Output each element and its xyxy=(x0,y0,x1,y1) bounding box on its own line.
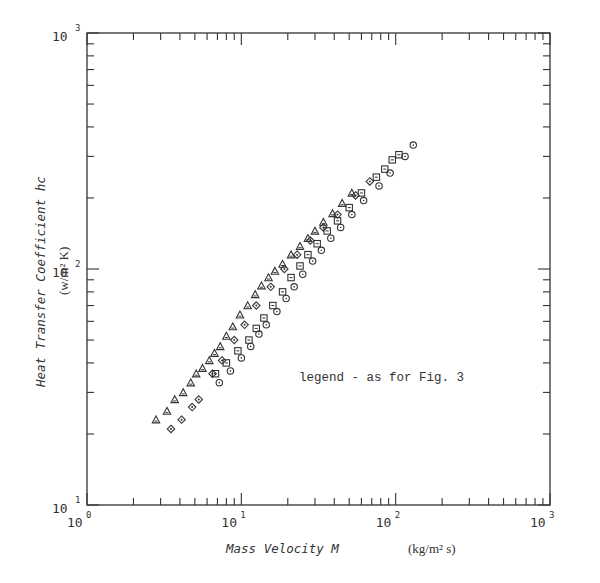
circle-marker-dot xyxy=(302,273,304,275)
circle-marker-dot xyxy=(241,357,243,359)
diamond-marker-dot xyxy=(270,286,272,288)
diamond-marker-dot xyxy=(170,428,172,430)
x-tick-label: 10 xyxy=(376,515,392,530)
plot-border xyxy=(87,33,550,505)
y-axis-ticks xyxy=(87,33,550,505)
triangle-marker xyxy=(179,389,186,396)
diamond-marker-dot xyxy=(233,339,235,341)
triangle-marker xyxy=(338,200,345,207)
triangle-marker xyxy=(199,364,206,371)
diamond-marker-dot xyxy=(309,240,311,242)
circle-marker-dot xyxy=(258,333,260,335)
triangle-marker xyxy=(229,323,236,330)
circle-marker-dot xyxy=(312,260,314,262)
y-tick-exponent: 1 xyxy=(75,495,80,505)
data-points xyxy=(152,142,416,433)
y-axis-unit: (w/m² K) xyxy=(56,247,71,295)
y-axis-title: Heat Transfer Coefficient hc xyxy=(33,176,48,388)
diamond-marker-dot xyxy=(355,194,357,196)
triangle-marker xyxy=(171,396,178,403)
circle-marker-dot xyxy=(404,156,406,158)
legend-annotation: legend - as for Fig. 3 xyxy=(299,371,464,385)
triangle-marker xyxy=(258,282,265,289)
triangle-marker xyxy=(187,379,194,386)
diamond-marker-dot xyxy=(255,305,257,307)
triangle-marker xyxy=(223,332,230,339)
circle-marker-dot xyxy=(351,214,353,216)
triangle-marker xyxy=(236,311,243,318)
diamond-marker-dot xyxy=(191,406,193,408)
diamond-marker-dot xyxy=(198,398,200,400)
x-axis-ticks xyxy=(87,33,550,505)
x-tick-label: 10 xyxy=(530,515,546,530)
y-axis-unit-group: (w/m² K) xyxy=(56,247,71,295)
x-tick-exponent: 3 xyxy=(549,510,554,520)
circle-marker-dot xyxy=(250,346,252,348)
circle-marker-dot xyxy=(363,200,365,202)
y-axis-title-group: Heat Transfer Coefficient hc xyxy=(33,176,48,388)
triangle-marker xyxy=(211,349,218,356)
circle-marker-dot xyxy=(321,250,323,252)
triangle-marker xyxy=(311,227,318,234)
triangle-marker xyxy=(296,242,303,249)
y-tick-exponent: 3 xyxy=(75,23,80,33)
triangle-marker xyxy=(271,267,278,274)
triangle-marker xyxy=(217,343,224,350)
y-tick-label: 10 xyxy=(52,501,68,516)
chart: 100101102103 101102103 legend - as for F… xyxy=(0,0,600,583)
diamond-marker-dot xyxy=(283,268,285,270)
x-tick-exponent: 0 xyxy=(86,510,91,520)
triangle-marker xyxy=(206,357,213,364)
circle-marker-dot xyxy=(276,311,278,313)
x-axis-unit: (kg/m² s) xyxy=(408,541,456,556)
plot-frame xyxy=(87,33,550,505)
circle-marker-dot xyxy=(412,144,414,146)
diamond-marker-dot xyxy=(369,180,371,182)
x-axis-tick-labels: 100101102103 xyxy=(67,510,554,530)
y-tick-exponent: 2 xyxy=(75,259,80,269)
y-tick-label: 10 xyxy=(52,29,68,44)
triangle-marker xyxy=(265,274,272,281)
x-tick-label: 10 xyxy=(221,515,237,530)
circle-marker-dot xyxy=(265,324,267,326)
triangle-marker xyxy=(244,302,251,309)
triangle-marker xyxy=(252,291,259,298)
circle-marker-dot xyxy=(285,298,287,300)
diamond-marker-dot xyxy=(296,254,298,256)
diamond-marker-dot xyxy=(181,419,183,421)
circle-marker-dot xyxy=(330,237,332,239)
circle-marker-dot xyxy=(230,370,232,372)
circle-marker-dot xyxy=(378,185,380,187)
diamond-marker-dot xyxy=(337,214,339,216)
circle-marker-dot xyxy=(293,286,295,288)
triangle-marker xyxy=(152,416,159,423)
x-tick-exponent: 2 xyxy=(395,510,400,520)
circle-marker-dot xyxy=(219,382,221,384)
circle-marker-dot xyxy=(340,227,342,229)
x-tick-label: 10 xyxy=(67,515,83,530)
circle-marker-dot xyxy=(389,172,391,174)
x-axis-title: Mass Velocity M xyxy=(225,541,339,556)
x-tick-exponent: 1 xyxy=(240,510,245,520)
triangle-marker xyxy=(163,407,170,414)
diamond-marker-dot xyxy=(244,324,246,326)
